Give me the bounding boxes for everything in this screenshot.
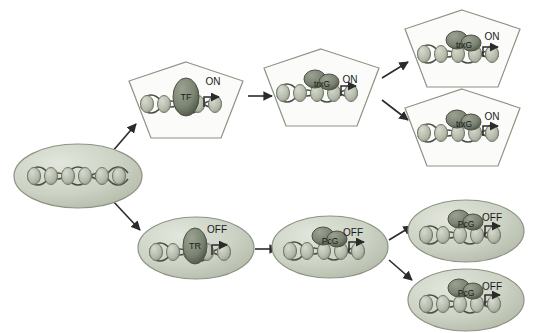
cell-off-3a[interactable]: PcG OFF xyxy=(408,200,524,262)
factor-label-on-3a: trxG xyxy=(456,40,472,50)
factor-label-off-3a: PcG xyxy=(458,219,475,229)
arrow-on2-to-on3b xyxy=(382,100,408,120)
cell-off-3b[interactable]: PcG OFF xyxy=(408,269,524,331)
factor-label-on-1: TF xyxy=(181,92,192,102)
arrow-on2-to-on3a xyxy=(382,62,408,78)
factor-label-on-3b: trxG xyxy=(456,119,472,129)
state-label-off-3a: OFF xyxy=(482,212,502,223)
cell-on-3b[interactable]: trxG ON xyxy=(405,89,520,166)
state-label-off-3b: OFF xyxy=(482,281,502,292)
cell-off-1[interactable]: TR OFF xyxy=(138,217,254,279)
cell-origin[interactable] xyxy=(14,144,142,208)
state-label-off-1: OFF xyxy=(207,224,227,235)
cell-on-3a[interactable]: trxG ON xyxy=(405,10,520,87)
factor-label-on-2: trxG xyxy=(314,79,330,89)
state-label-on-3b: ON xyxy=(485,111,500,122)
state-label-off-2: OFF xyxy=(343,227,363,238)
factor-label-off-1: TR xyxy=(189,241,201,251)
arrow-off2-to-off3b xyxy=(389,260,412,280)
state-label-on-3a: ON xyxy=(485,31,500,42)
factor-label-off-2: PcG xyxy=(322,236,339,246)
diagram-canvas: TF ON trxG ON trxG ON xyxy=(0,0,534,333)
factor-label-off-3b: PcG xyxy=(458,288,475,298)
cell-on-2[interactable]: trxG ON xyxy=(264,49,379,126)
chromatin-inheritance-diagram: TF ON trxG ON trxG ON xyxy=(0,0,534,333)
cell-off-2[interactable]: PcG OFF xyxy=(272,216,388,278)
state-label-on-1: ON xyxy=(206,76,221,87)
arrow-origin-to-on1 xyxy=(112,124,136,152)
arrow-origin-to-off1 xyxy=(112,200,140,230)
cell-on-1[interactable]: TF ON xyxy=(129,62,243,138)
state-label-on-2: ON xyxy=(343,74,358,85)
